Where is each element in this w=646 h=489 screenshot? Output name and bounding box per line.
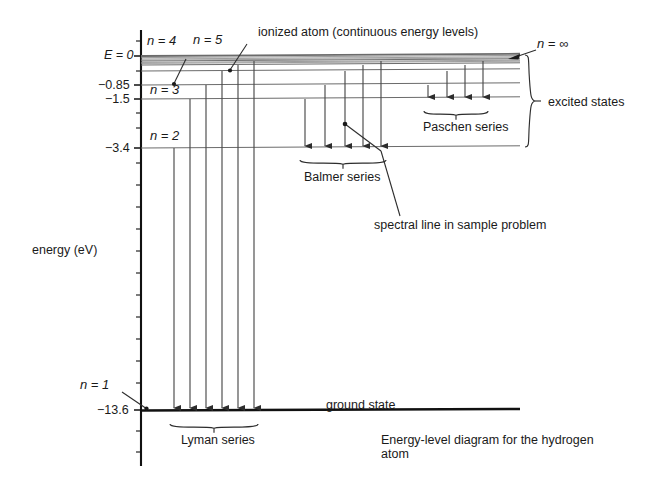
level-label-n5: n = 5 xyxy=(193,33,222,48)
figure-caption-line1: Energy-level diagram for the hydrogen xyxy=(381,433,594,447)
axis-label-minus-3-4: −3.4 xyxy=(105,141,130,155)
transition-arrows xyxy=(174,61,483,408)
series-label-lyman: Lyman series xyxy=(181,433,255,447)
series-label-paschen: Paschen series xyxy=(423,120,508,134)
axis-label-minus-13-6: −13.6 xyxy=(97,403,129,417)
spectral-line-label: spectral line in sample problem xyxy=(374,218,546,232)
level-label-n4: n = 4 xyxy=(147,34,176,49)
level-label-n2: n = 2 xyxy=(150,129,179,144)
axis-label-E0: E = 0 xyxy=(104,48,134,62)
series-brace xyxy=(424,111,488,115)
energy-level-line xyxy=(141,69,520,71)
level-label-n1: n = 1 xyxy=(80,378,109,393)
level-label-n3: n = 3 xyxy=(150,83,179,98)
energy-level-line xyxy=(141,83,520,85)
series-brace xyxy=(170,424,258,428)
energy-level-line xyxy=(141,97,520,99)
y-axis-title: energy (eV) xyxy=(32,243,97,257)
energy-level-diagram: E = 0 −0.85 −1.5 −3.4 −13.6 energy (eV) … xyxy=(0,0,646,489)
series-label-balmer: Balmer series xyxy=(304,170,380,184)
series-braces xyxy=(170,111,488,433)
excited-states-brace xyxy=(525,55,541,147)
ground-state-label: ground state xyxy=(326,398,396,412)
axis-label-minus-1-5: −1.5 xyxy=(105,92,130,106)
continuum-label: ionized atom (continuous energy levels) xyxy=(258,25,478,39)
figure-caption-line2: atom xyxy=(381,447,409,461)
axis-label-minus-0-85: −0.85 xyxy=(98,78,130,92)
series-brace xyxy=(300,160,386,164)
level-label-n-infinity: n = ∞ xyxy=(537,37,568,52)
excited-states-label: excited states xyxy=(548,95,624,109)
energy-level-line xyxy=(141,146,520,148)
